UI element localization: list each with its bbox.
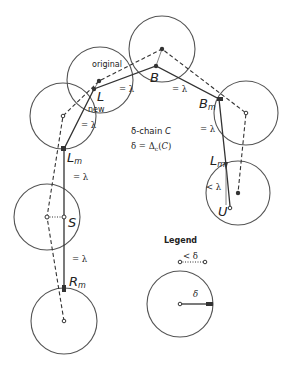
legend-radius-label: δ — [193, 289, 198, 299]
label-u: U — [218, 204, 228, 219]
edge-label-l-lm: = λ — [81, 120, 97, 130]
label-b: B — [150, 70, 159, 85]
edge-label-s-rm: = λ — [72, 254, 88, 264]
circles — [14, 16, 278, 354]
label-s: S — [68, 215, 76, 230]
edge-label-lm-s: = λ — [73, 172, 89, 182]
label-original: original — [92, 60, 122, 69]
title-delta: δ = Δc(C) — [131, 141, 171, 152]
label-rm: Rm — [69, 274, 86, 290]
title-chain: δ-chain C — [131, 126, 171, 136]
label-lm-left: Lm — [67, 150, 82, 166]
legend-dotted-label: < δ — [183, 251, 198, 261]
edge-label-b-bm: = λ — [172, 84, 188, 94]
edge-label-l-b: = λ — [119, 84, 135, 94]
label-new: new — [88, 105, 105, 114]
edge-label-lm-u: < λ — [206, 182, 222, 192]
label-bm: Bm — [199, 96, 216, 112]
label-lm-right: Lm — [210, 153, 225, 169]
legend-title: Legend — [164, 236, 197, 245]
delta-chain-diagram: original new L B Bm Lm Lm S Rm U = λ = λ… — [0, 0, 294, 371]
connector-b — [156, 49, 162, 66]
label-l: L — [97, 89, 104, 104]
edge-label-bm-lm: = λ — [200, 124, 216, 134]
